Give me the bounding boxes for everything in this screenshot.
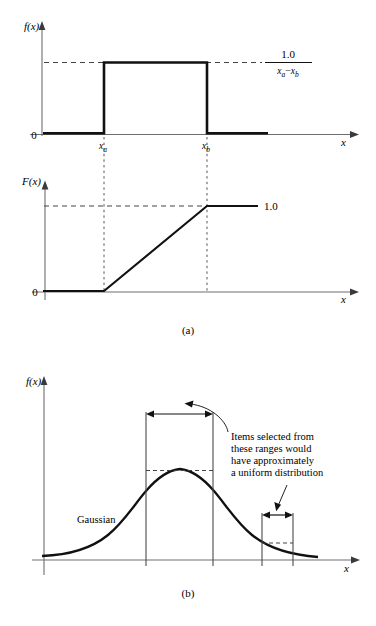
- cdf-plateau-label: 1.0: [264, 200, 278, 212]
- pdf-xa-tick-label: xa: [98, 141, 107, 154]
- pdf-origin-label: 0: [31, 129, 37, 141]
- annotation-leader-wide: [190, 404, 228, 432]
- gauss-x-axis-label: x: [343, 562, 349, 574]
- pdf-xb-tick-label: xb: [201, 141, 210, 154]
- pdf-y-axis-label: f(x): [24, 20, 40, 33]
- wide-range-left-arrowhead: [146, 411, 154, 418]
- gaussian-curve-label: Gaussian: [77, 514, 116, 525]
- panel-a-pdf: f(x) 0 x xa xb 1.0 xa−xb: [24, 20, 359, 292]
- pdf-rect-curve: [43, 63, 268, 134]
- annotation-line-1: Items selected from: [231, 431, 314, 442]
- pdf-x-axis-arrowhead: [350, 131, 359, 138]
- annotation-leader-wide-arrowhead: [185, 401, 194, 408]
- gauss-y-axis-label: f(x): [26, 375, 42, 388]
- cdf-y-axis-arrowhead: [42, 181, 49, 190]
- annotation-leader-narrow-arrowhead: [274, 502, 281, 511]
- cdf-origin-label: 0: [32, 286, 38, 298]
- annotation-text-block: Items selected from these ranges would h…: [231, 431, 324, 478]
- cdf-ramp-curve: [43, 206, 258, 291]
- narrow-range-left-arrowhead: [262, 512, 270, 519]
- annotation-leader-narrow: [278, 485, 287, 506]
- cdf-x-axis-arrowhead: [350, 289, 359, 296]
- pdf-y-axis-arrowhead: [39, 21, 46, 30]
- cdf-y-axis-label: F(x): [21, 175, 41, 188]
- figure-svg: f(x) 0 x xa xb 1.0 xa−xb F(x) 0 x 1.0 (a…: [0, 0, 376, 626]
- narrow-range-right-arrowhead: [285, 512, 293, 519]
- figure-root: f(x) 0 x xa xb 1.0 xa−xb F(x) 0 x 1.0 (a…: [0, 0, 376, 626]
- pdf-height-fraction-label: 1.0 xa−xb: [265, 48, 312, 79]
- gauss-y-axis-arrowhead: [41, 376, 48, 385]
- panel-b-caption: (b): [182, 587, 195, 600]
- annotation-line-2: these ranges would: [231, 443, 312, 454]
- pdf-height-denominator: xa−xb: [276, 65, 299, 79]
- annotation-line-3: have approximately: [231, 455, 315, 466]
- pdf-height-numerator: 1.0: [281, 48, 295, 60]
- panel-b-gaussian: Items selected from these ranges would h…: [26, 375, 360, 600]
- gaussian-curve: [42, 469, 318, 557]
- pdf-x-axis-label: x: [340, 136, 346, 148]
- cdf-x-axis-label: x: [340, 293, 346, 305]
- panel-a-caption: (a): [182, 324, 195, 337]
- gauss-x-axis-arrowhead: [351, 557, 360, 564]
- panel-a-cdf: F(x) 0 x 1.0 (a): [21, 175, 359, 337]
- annotation-line-4: a uniform distribution: [231, 467, 324, 478]
